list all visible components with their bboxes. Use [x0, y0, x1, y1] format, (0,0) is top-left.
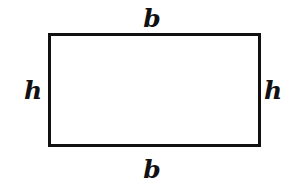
- label-bottom-side-b: b: [143, 157, 160, 182]
- label-left-side-h: h: [24, 78, 42, 103]
- rectangle-geometry-figure: b b h h: [0, 0, 290, 186]
- rectangle-outline: [50, 35, 260, 146]
- label-right-side-h: h: [264, 78, 282, 103]
- label-top-side-b: b: [143, 6, 160, 31]
